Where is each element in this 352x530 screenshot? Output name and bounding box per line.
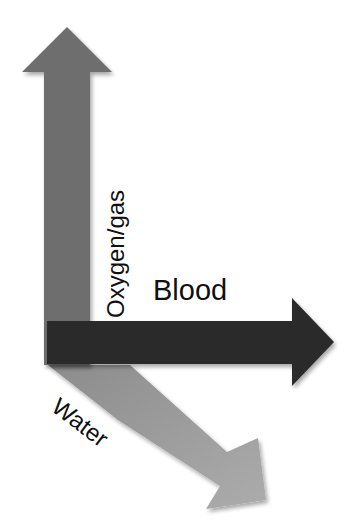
flow-diagram: Oxygen/gas Blood Water xyxy=(0,0,352,530)
blood-label: Blood xyxy=(153,274,227,306)
oxygen-label: Oxygen/gas xyxy=(102,190,129,318)
oxygen-arrow xyxy=(22,27,112,365)
